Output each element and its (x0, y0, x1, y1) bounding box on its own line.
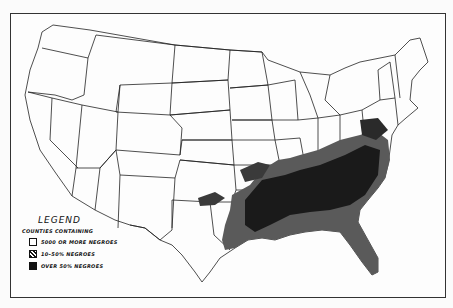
legend-label: 5000 OR MORE NEGROES (41, 239, 118, 245)
hatched-swatch-icon (29, 250, 37, 258)
shaded-south (198, 118, 390, 275)
legend-item-over-50: OVER 50% NEGROES (29, 262, 118, 270)
white-swatch-icon (29, 238, 37, 246)
legend-subtitle: COUNTIES CONTAINING (22, 228, 118, 234)
black-swatch-icon (29, 262, 37, 270)
legend-label: OVER 50% NEGROES (41, 263, 103, 269)
map-legend: LEGEND COUNTIES CONTAINING 5000 OR MORE … (22, 215, 118, 270)
legend-title: LEGEND (38, 215, 118, 225)
legend-item-5000-or-more: 5000 OR MORE NEGROES (29, 238, 118, 246)
legend-label: 10–50% NEGROES (41, 251, 95, 257)
legend-item-10-50: 10–50% NEGROES (29, 250, 118, 258)
